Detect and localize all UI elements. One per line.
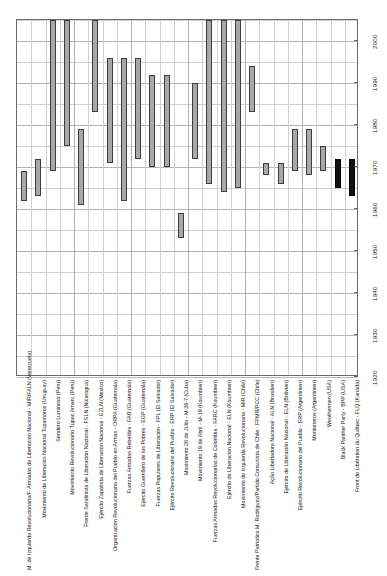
category-label: Frente Sandinista de Liberación Nacional… (82, 380, 90, 570)
y-axis-tick-text: 1960 (371, 202, 378, 217)
vertical-gridline (103, 20, 104, 375)
y-axis-tickmark (354, 250, 358, 251)
timeline-bar[interactable] (320, 146, 326, 171)
timeline-bar[interactable] (35, 159, 41, 197)
timeline-bar[interactable] (278, 163, 284, 184)
vertical-gridline (202, 20, 203, 375)
category-label: Montoneros (Argentinien) (310, 380, 318, 570)
category-label: Movimiento Revolucionario Túpac Amaru (P… (68, 380, 76, 570)
timeline-bar[interactable] (135, 58, 141, 159)
timeline-bar[interactable] (78, 129, 84, 205)
category-label: Ejército de Liberación Nacional - ELN (B… (282, 380, 290, 570)
vertical-gridline (188, 20, 189, 375)
timeline-bar[interactable] (335, 159, 341, 188)
y-axis-tick-label: 1920 (358, 371, 387, 381)
timeline-bar[interactable] (178, 213, 184, 238)
y-axis-tickmark (354, 124, 358, 125)
y-axis-tick-text: 1950 (371, 244, 378, 259)
vertical-gridline (74, 20, 75, 375)
gridline-minor (17, 230, 357, 231)
timeline-bar[interactable] (306, 129, 312, 175)
category-label: Movimiento 26 de Julio - M-26-7 (Cuba) (182, 380, 190, 570)
timeline-bar[interactable] (192, 83, 198, 159)
y-axis-tick-text: 1990 (371, 76, 378, 91)
vertical-gridline (131, 20, 132, 375)
gridline-minor (17, 314, 357, 315)
y-axis-tick-label: 1970 (358, 161, 387, 171)
y-axis-tickmark (354, 334, 358, 335)
y-axis-tick-label: 1950 (358, 245, 387, 255)
vertical-gridline (217, 20, 218, 375)
category-label: Ejército Guerrillero de los Pobres - EGP… (139, 380, 147, 570)
vertical-gridline (302, 20, 303, 375)
category-label: M. de Izquierda Revolucionaria/F. Armada… (25, 380, 33, 570)
gridline-minor (17, 188, 357, 189)
category-label: Organización Revolucionaria del Pueblo e… (111, 380, 119, 570)
category-label: Movimiento 19 de Abril - M-19 (Koumbien) (196, 380, 204, 570)
category-label: Ejército Zapatista de Liberación Naciona… (97, 380, 105, 570)
vertical-gridline (160, 20, 161, 375)
y-axis-tick-label: 1980 (358, 119, 387, 129)
vertical-gridline (174, 20, 175, 375)
timeline-chart: 192019301940195019601970198019902000 M. … (0, 0, 387, 576)
category-label: Sendero Luminoso (Perú) (54, 380, 62, 570)
timeline-bar[interactable] (21, 171, 27, 200)
vertical-gridline (259, 20, 260, 375)
category-label: Ação Libertadora Nacional - ALN (Brasili… (268, 380, 276, 570)
y-axis-tickmark (354, 82, 358, 83)
y-axis-tickmark (354, 292, 358, 293)
gridline-major (17, 293, 357, 294)
gridline-minor (17, 272, 357, 273)
vertical-gridline (316, 20, 317, 375)
timeline-bar[interactable] (206, 20, 212, 184)
timeline-bar[interactable] (249, 66, 255, 112)
y-axis-tick-label: 2000 (358, 35, 387, 45)
timeline-bar[interactable] (292, 129, 298, 171)
gridline-minor (17, 356, 357, 357)
y-axis-tickmark (354, 208, 358, 209)
timeline-bar[interactable] (92, 20, 98, 112)
y-axis-tick-text: 1970 (371, 160, 378, 175)
y-axis-tick-text: 1980 (371, 118, 378, 133)
category-label: Black Panther Party - BPP (USA) (339, 380, 347, 570)
category-label: Weathermen (USA) (325, 380, 333, 570)
y-axis-tick-text: 1940 (371, 286, 378, 301)
category-label: Movimiento de Izquierda Revolucionaria -… (239, 380, 247, 570)
gridline-major (17, 209, 357, 210)
plot-area (16, 19, 358, 376)
timeline-bar[interactable] (263, 163, 269, 176)
y-axis-years: 192019301940195019601970198019902000 (358, 19, 387, 376)
category-label: Fuerzas Populares de Liberación - FPL (E… (154, 380, 162, 570)
vertical-gridline (345, 20, 346, 375)
y-axis-tick-text: 2000 (371, 34, 378, 49)
timeline-bar[interactable] (149, 75, 155, 167)
y-axis-tick-label: 1990 (358, 77, 387, 87)
y-axis-tickmark (354, 166, 358, 167)
vertical-gridline (117, 20, 118, 375)
timeline-bar[interactable] (164, 75, 170, 167)
timeline-bar[interactable] (121, 58, 127, 201)
timeline-bar[interactable] (107, 58, 113, 163)
y-axis-tick-label: 1960 (358, 203, 387, 213)
category-label: Movimiento de Liberación Nacional Tupama… (40, 380, 48, 570)
category-label: Ejército de Liberación Nacional - ELN (K… (225, 380, 233, 570)
timeline-bar[interactable] (50, 20, 56, 171)
category-label: Ejército Revolucionario del Pueblo - ERP… (296, 380, 304, 570)
y-axis-tick-text: 1930 (371, 328, 378, 343)
timeline-bar[interactable] (235, 20, 241, 188)
vertical-gridline (88, 20, 89, 375)
timeline-bar[interactable] (64, 20, 70, 146)
vertical-gridline (60, 20, 61, 375)
y-axis-tick-label: 1940 (358, 287, 387, 297)
category-label: Fuerzas Armadas Rebeldes - FAR (Guatemal… (125, 380, 133, 570)
vertical-gridline (288, 20, 289, 375)
gridline-major (17, 335, 357, 336)
category-label: Frente Patriotico M. Rodriguez/Partido C… (253, 380, 261, 570)
vertical-gridline (46, 20, 47, 375)
vertical-gridline (274, 20, 275, 375)
vertical-gridline (145, 20, 146, 375)
category-label: Ejército Revolucionario del Pueblo - ERP… (168, 380, 176, 570)
y-axis-tickmark (354, 40, 358, 41)
timeline-bar[interactable] (349, 159, 355, 197)
timeline-bar[interactable] (221, 20, 227, 192)
